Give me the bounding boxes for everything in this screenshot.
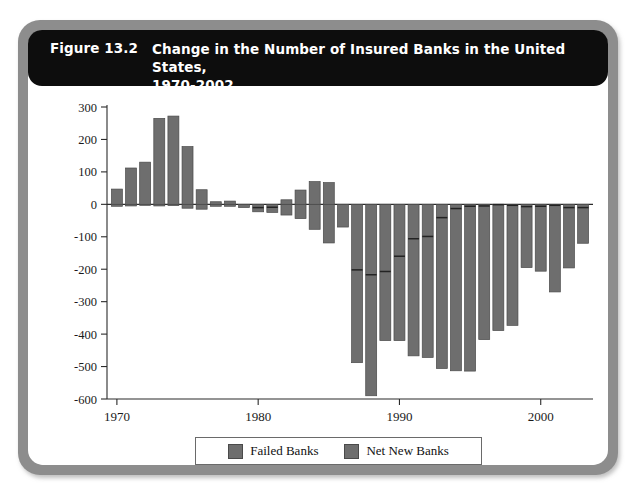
bar-segment-total bbox=[295, 190, 306, 204]
bar-segment-total bbox=[323, 183, 334, 205]
bar-group bbox=[126, 168, 137, 206]
y-axis-tick-label: -200 bbox=[74, 263, 97, 277]
y-axis-tick-label: 200 bbox=[78, 133, 97, 147]
bar-segment-total bbox=[507, 204, 518, 325]
bar-segment-total bbox=[521, 204, 532, 267]
bar-segment-total bbox=[535, 204, 546, 271]
bar-segment-total bbox=[394, 204, 405, 340]
bar-group bbox=[281, 200, 292, 215]
x-axis-tick-label: 1980 bbox=[245, 409, 271, 424]
bar-group bbox=[549, 204, 560, 292]
bar-group bbox=[578, 204, 589, 243]
bar-segment-failed bbox=[168, 204, 179, 205]
bar-segment-failed bbox=[224, 204, 235, 206]
legend-swatch-net-new-banks bbox=[344, 444, 359, 459]
figure-title-bar: Figure 13.2 Change in the Number of Insu… bbox=[28, 30, 608, 86]
bar-segment-total bbox=[493, 204, 504, 330]
legend-entry-failed-banks: Failed Banks bbox=[228, 443, 318, 459]
bar-segment-total bbox=[352, 204, 363, 362]
figure-caption-line1: Change in the Number of Insured Banks in… bbox=[152, 41, 565, 75]
bar-segment-total bbox=[479, 204, 490, 339]
bar-group bbox=[253, 204, 264, 211]
bar-segment-failed bbox=[309, 204, 320, 229]
bar-group bbox=[224, 201, 235, 206]
bar-group bbox=[182, 147, 193, 209]
bar-segment-total bbox=[578, 204, 589, 243]
bar-segment-total bbox=[380, 204, 391, 340]
bar-segment-failed bbox=[126, 204, 137, 206]
bar-group bbox=[507, 204, 518, 325]
bar-group bbox=[450, 204, 461, 370]
bar-group bbox=[337, 204, 348, 227]
bar-segment-failed bbox=[295, 204, 306, 218]
bar-group bbox=[493, 204, 504, 330]
bar-group bbox=[111, 189, 122, 206]
bar-segment-failed bbox=[281, 204, 292, 215]
bar-segment-total bbox=[196, 190, 207, 205]
bar-segment-total bbox=[422, 204, 433, 357]
bar-segment-total bbox=[224, 201, 235, 204]
x-axis-tick-label: 2000 bbox=[528, 409, 554, 424]
y-axis-tick-label: 300 bbox=[78, 101, 97, 115]
bar-segment-total bbox=[140, 162, 151, 204]
bar-segment-failed bbox=[111, 204, 122, 206]
bank-change-bar-chart: 3002001000-100-200-300-400-500-600197019… bbox=[33, 93, 603, 465]
legend-label-net-new-banks: Net New Banks bbox=[366, 443, 448, 459]
bar-group bbox=[380, 204, 391, 340]
bar-group bbox=[366, 204, 377, 395]
bar-segment-total bbox=[111, 189, 122, 204]
y-axis-tick-label: -100 bbox=[74, 230, 97, 244]
x-axis-tick-label: 1990 bbox=[386, 409, 412, 424]
bar-group bbox=[295, 190, 306, 219]
figure-number-label: Figure 13.2 bbox=[50, 40, 138, 56]
x-axis-tick-label: 1970 bbox=[104, 409, 130, 424]
bar-group bbox=[168, 116, 179, 206]
bar-group bbox=[309, 182, 320, 230]
y-axis-tick-label: -300 bbox=[74, 295, 97, 309]
bar-group bbox=[196, 190, 207, 209]
bar-group bbox=[210, 202, 221, 207]
bar-segment-failed bbox=[140, 204, 151, 205]
bar-group bbox=[140, 162, 151, 205]
legend-swatch-failed-banks bbox=[228, 444, 243, 459]
bar-group bbox=[564, 204, 575, 268]
legend-entry-net-new-banks: Net New Banks bbox=[344, 443, 448, 459]
bar-segment-total bbox=[450, 204, 461, 370]
y-axis-tick-label: -600 bbox=[74, 393, 97, 407]
y-axis-tick-label: 0 bbox=[91, 198, 97, 212]
bar-segment-failed bbox=[196, 204, 207, 209]
y-axis-tick-label: -400 bbox=[74, 328, 97, 342]
bar-group bbox=[267, 204, 278, 212]
bar-group bbox=[436, 204, 447, 368]
bar-group bbox=[154, 118, 165, 206]
plot-card: 3002001000-100-200-300-400-500-600197019… bbox=[33, 93, 603, 465]
bar-group bbox=[479, 204, 490, 339]
y-axis-tick-label: -500 bbox=[74, 360, 97, 374]
chart-area: 3002001000-100-200-300-400-500-600197019… bbox=[33, 93, 603, 465]
bar-segment-failed bbox=[210, 204, 221, 206]
bar-segment-total bbox=[182, 147, 193, 205]
bar-group bbox=[521, 204, 532, 267]
bar-segment-total bbox=[154, 118, 165, 204]
bar-segment-total bbox=[210, 202, 221, 205]
bar-segment-total bbox=[281, 200, 292, 205]
bar-segment-failed bbox=[154, 204, 165, 206]
bar-segment-total bbox=[267, 204, 278, 212]
bar-group bbox=[422, 204, 433, 357]
bar-group bbox=[465, 204, 476, 371]
bar-segment-failed bbox=[182, 204, 193, 208]
bar-group bbox=[535, 204, 546, 271]
legend-label-failed-banks: Failed Banks bbox=[250, 443, 318, 459]
bar-segment-failed bbox=[323, 204, 334, 243]
bar-segment-total bbox=[549, 204, 560, 292]
bar-segment-total bbox=[168, 116, 179, 204]
bar-group bbox=[323, 183, 334, 243]
bar-group bbox=[394, 204, 405, 340]
bar-segment-total bbox=[366, 204, 377, 395]
bar-segment-total bbox=[239, 204, 250, 207]
figure-caption-line2: 1970-2002 bbox=[152, 77, 234, 93]
figure-caption: Change in the Number of Insured Banks in… bbox=[152, 40, 594, 95]
bar-segment-total bbox=[408, 204, 419, 356]
figure-root: Figure 13.2 Change in the Number of Insu… bbox=[0, 0, 637, 502]
bar-segment-total bbox=[564, 204, 575, 268]
